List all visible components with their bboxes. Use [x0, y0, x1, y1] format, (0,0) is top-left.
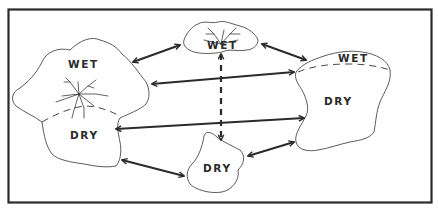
link-bottom-right	[248, 142, 294, 156]
link-left-right-lower	[116, 118, 304, 129]
patch-bottom: DRY	[187, 132, 243, 192]
patch-top: WET	[184, 21, 258, 53]
diagram-canvas: WET DRY WET WET DRY DRY	[0, 0, 438, 211]
label-left-wet: WET	[68, 58, 99, 70]
patch-right: WET DRY	[295, 51, 390, 151]
label-right-dry: DRY	[324, 95, 353, 107]
patch-left: WET DRY	[13, 38, 149, 166]
label-top-wet: WET	[207, 39, 238, 51]
link-top-right	[262, 44, 306, 60]
label-left-dry: DRY	[70, 129, 99, 141]
label-right-wet: WET	[338, 52, 369, 64]
link-left-bottom	[122, 160, 184, 176]
label-bottom-dry: DRY	[203, 162, 232, 174]
link-left-right-upper	[152, 72, 294, 84]
link-left-top	[133, 45, 180, 62]
